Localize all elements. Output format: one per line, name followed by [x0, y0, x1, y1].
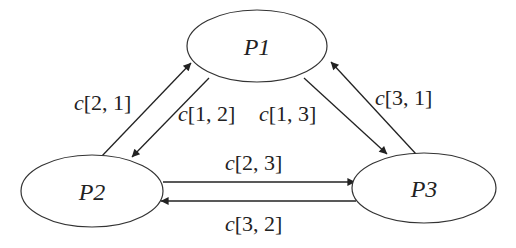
edge-label-c23: c[2, 3]: [225, 150, 282, 175]
edge-label-c13: c[1, 3]: [259, 101, 316, 126]
node-p3: P3: [352, 153, 496, 223]
edge-label-c32: c[3, 2]: [225, 211, 282, 236]
edge-label-c12: c[1, 2]: [178, 101, 235, 126]
process-graph: P1 P2 P3 c[2, 1] c[1, 2] c[1, 3] c[3, 1]…: [0, 0, 516, 248]
edge-label-c31: c[3, 1]: [375, 85, 432, 110]
node-p2-label: P2: [78, 179, 106, 205]
edge-label-c21: c[2, 1]: [74, 90, 131, 115]
node-p2: P2: [21, 155, 163, 227]
node-p3-label: P3: [410, 176, 438, 202]
node-p1: P1: [187, 10, 327, 82]
node-p1-label: P1: [243, 34, 271, 60]
